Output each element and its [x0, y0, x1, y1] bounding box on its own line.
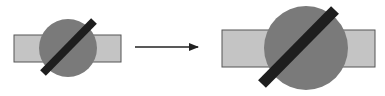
scaling-diagram [0, 0, 385, 96]
after-circle [264, 6, 348, 90]
before-shape-group [14, 19, 121, 77]
after-shape-group [222, 6, 375, 90]
